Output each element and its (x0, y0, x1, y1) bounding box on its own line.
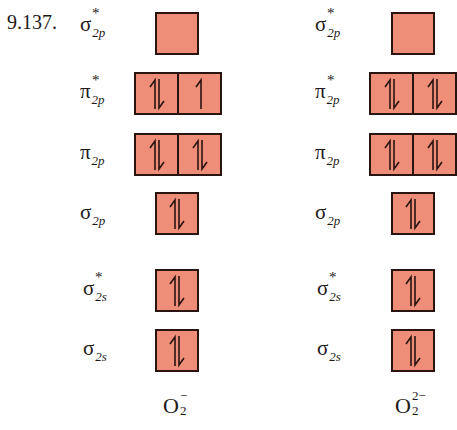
orbital-box-sigma-2s (155, 329, 199, 372)
orbital-box-sigma-star-2p (391, 12, 435, 55)
orbital-cell-empty (157, 14, 197, 53)
ion-label-o2-minus: O−2 (163, 393, 199, 419)
label-sigma-2p: σ2p (315, 200, 340, 225)
orbital-box-sigma-star-2p (155, 12, 199, 55)
orbital-box-sigma-2p (391, 192, 435, 235)
label-pi-2p: π2p (315, 140, 340, 165)
orbital-cell-single (177, 74, 220, 113)
orbital-cell-paired (393, 271, 433, 310)
spin-up-down-icon (167, 197, 187, 231)
orbital-cell-empty (393, 14, 433, 53)
orbital-cell-paired (371, 135, 412, 174)
spin-up-down-icon (167, 274, 187, 308)
orbital-box-pi-2p (134, 133, 222, 176)
orbital-cell-paired (136, 135, 177, 174)
label-pi-star-2p: π*2p (80, 79, 105, 104)
label-sigma-2p: σ2p (80, 200, 105, 225)
orbital-cell-paired (412, 135, 455, 174)
label-sigma-star-2p: σ*2p (315, 12, 340, 37)
spin-up-down-icon (147, 77, 167, 111)
label-sigma-star-2s: σ*2s (83, 276, 107, 301)
spin-up-icon (190, 77, 210, 111)
label-sigma-2s: σ2s (317, 336, 341, 361)
spin-up-down-icon (190, 138, 210, 172)
orbital-box-sigma-star-2s (155, 269, 199, 312)
spin-up-down-icon (403, 274, 423, 308)
orbital-box-sigma-2p (155, 192, 199, 235)
label-sigma-star-2p: σ*2p (80, 12, 105, 37)
orbital-box-sigma-2s (391, 329, 435, 372)
orbital-cell-paired (371, 74, 412, 113)
orbital-cell-paired (412, 74, 455, 113)
orbital-box-pi-star-2p (134, 72, 222, 115)
spin-up-down-icon (425, 77, 445, 111)
label-pi-2p: π2p (80, 140, 105, 165)
spin-up-down-icon (382, 138, 402, 172)
label-sigma-star-2s: σ*2s (317, 276, 341, 301)
spin-up-down-icon (167, 334, 187, 368)
ion-label-o2-2minus: O2−2 (395, 393, 431, 419)
spin-up-down-icon (147, 138, 167, 172)
spin-up-down-icon (403, 197, 423, 231)
problem-number: 9.137. (7, 11, 57, 34)
orbital-cell-paired (157, 331, 197, 370)
orbital-cell-paired (393, 331, 433, 370)
spin-up-down-icon (382, 77, 402, 111)
orbital-box-pi-2p (369, 133, 457, 176)
spin-up-down-icon (403, 334, 423, 368)
orbital-cell-paired (136, 74, 177, 113)
label-pi-star-2p: π*2p (315, 79, 340, 104)
orbital-cell-paired (157, 194, 197, 233)
spin-up-down-icon (425, 138, 445, 172)
orbital-cell-paired (393, 194, 433, 233)
label-sigma-2s: σ2s (83, 336, 107, 361)
orbital-cell-paired (157, 271, 197, 310)
orbital-box-sigma-star-2s (391, 269, 435, 312)
orbital-cell-paired (177, 135, 220, 174)
orbital-box-pi-star-2p (369, 72, 457, 115)
